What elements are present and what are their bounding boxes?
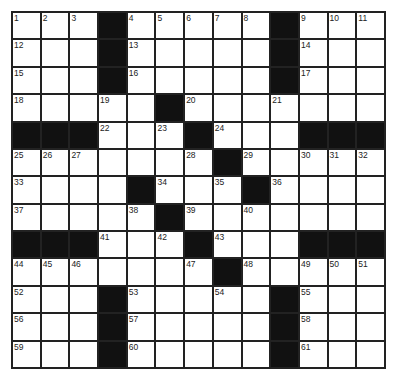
crossword-cell[interactable] bbox=[185, 287, 212, 312]
crossword-cell[interactable] bbox=[70, 314, 97, 339]
crossword-cell[interactable]: 23 bbox=[156, 123, 183, 148]
crossword-cell[interactable] bbox=[70, 95, 97, 120]
crossword-cell[interactable]: 61 bbox=[300, 342, 327, 367]
crossword-cell[interactable]: 3 bbox=[70, 13, 97, 38]
crossword-cell[interactable]: 15 bbox=[13, 68, 40, 93]
crossword-cell[interactable] bbox=[329, 314, 356, 339]
crossword-cell[interactable] bbox=[156, 259, 183, 284]
crossword-cell[interactable]: 36 bbox=[271, 177, 298, 202]
crossword-cell[interactable]: 44 bbox=[13, 259, 40, 284]
crossword-cell[interactable] bbox=[243, 95, 270, 120]
crossword-cell[interactable] bbox=[271, 150, 298, 175]
crossword-cell[interactable] bbox=[42, 314, 69, 339]
crossword-cell[interactable]: 50 bbox=[329, 259, 356, 284]
crossword-cell[interactable] bbox=[42, 342, 69, 367]
crossword-cell[interactable] bbox=[357, 342, 384, 367]
crossword-cell[interactable] bbox=[329, 40, 356, 65]
crossword-cell[interactable]: 41 bbox=[99, 232, 126, 257]
crossword-cell[interactable] bbox=[329, 95, 356, 120]
crossword-cell[interactable]: 42 bbox=[156, 232, 183, 257]
crossword-cell[interactable]: 5 bbox=[156, 13, 183, 38]
crossword-cell[interactable]: 33 bbox=[13, 177, 40, 202]
crossword-cell[interactable] bbox=[214, 205, 241, 230]
crossword-cell[interactable] bbox=[214, 40, 241, 65]
crossword-cell[interactable] bbox=[185, 40, 212, 65]
crossword-cell[interactable]: 58 bbox=[300, 314, 327, 339]
crossword-cell[interactable]: 4 bbox=[128, 13, 155, 38]
crossword-cell[interactable] bbox=[156, 150, 183, 175]
crossword-cell[interactable]: 1 bbox=[13, 13, 40, 38]
crossword-cell[interactable]: 48 bbox=[243, 259, 270, 284]
crossword-cell[interactable]: 54 bbox=[214, 287, 241, 312]
crossword-cell[interactable] bbox=[271, 123, 298, 148]
crossword-cell[interactable] bbox=[243, 232, 270, 257]
crossword-cell[interactable] bbox=[271, 205, 298, 230]
crossword-cell[interactable]: 10 bbox=[329, 13, 356, 38]
crossword-cell[interactable] bbox=[42, 68, 69, 93]
crossword-cell[interactable]: 28 bbox=[185, 150, 212, 175]
crossword-cell[interactable]: 59 bbox=[13, 342, 40, 367]
crossword-cell[interactable] bbox=[185, 68, 212, 93]
crossword-cell[interactable]: 11 bbox=[357, 13, 384, 38]
crossword-cell[interactable]: 17 bbox=[300, 68, 327, 93]
crossword-cell[interactable] bbox=[42, 40, 69, 65]
crossword-cell[interactable] bbox=[329, 177, 356, 202]
crossword-cell[interactable] bbox=[243, 342, 270, 367]
crossword-cell[interactable] bbox=[357, 287, 384, 312]
crossword-cell[interactable] bbox=[99, 177, 126, 202]
crossword-cell[interactable]: 12 bbox=[13, 40, 40, 65]
crossword-cell[interactable] bbox=[329, 287, 356, 312]
crossword-cell[interactable]: 21 bbox=[271, 95, 298, 120]
crossword-cell[interactable]: 51 bbox=[357, 259, 384, 284]
crossword-cell[interactable] bbox=[156, 314, 183, 339]
crossword-cell[interactable] bbox=[243, 68, 270, 93]
crossword-cell[interactable] bbox=[243, 40, 270, 65]
crossword-cell[interactable]: 45 bbox=[42, 259, 69, 284]
crossword-cell[interactable]: 38 bbox=[128, 205, 155, 230]
crossword-cell[interactable] bbox=[271, 259, 298, 284]
crossword-cell[interactable] bbox=[185, 177, 212, 202]
crossword-cell[interactable] bbox=[243, 287, 270, 312]
crossword-cell[interactable]: 20 bbox=[185, 95, 212, 120]
crossword-cell[interactable]: 56 bbox=[13, 314, 40, 339]
crossword-cell[interactable]: 22 bbox=[99, 123, 126, 148]
crossword-cell[interactable] bbox=[99, 259, 126, 284]
crossword-cell[interactable] bbox=[357, 314, 384, 339]
crossword-cell[interactable] bbox=[156, 68, 183, 93]
crossword-cell[interactable] bbox=[156, 40, 183, 65]
crossword-cell[interactable] bbox=[243, 314, 270, 339]
crossword-cell[interactable]: 37 bbox=[13, 205, 40, 230]
crossword-cell[interactable] bbox=[300, 177, 327, 202]
crossword-cell[interactable]: 8 bbox=[243, 13, 270, 38]
crossword-cell[interactable] bbox=[329, 342, 356, 367]
crossword-cell[interactable]: 39 bbox=[185, 205, 212, 230]
crossword-cell[interactable]: 14 bbox=[300, 40, 327, 65]
crossword-cell[interactable]: 34 bbox=[156, 177, 183, 202]
crossword-cell[interactable] bbox=[70, 177, 97, 202]
crossword-cell[interactable]: 13 bbox=[128, 40, 155, 65]
crossword-cell[interactable] bbox=[70, 287, 97, 312]
crossword-cell[interactable]: 32 bbox=[357, 150, 384, 175]
crossword-cell[interactable]: 47 bbox=[185, 259, 212, 284]
crossword-cell[interactable]: 57 bbox=[128, 314, 155, 339]
crossword-cell[interactable]: 2 bbox=[42, 13, 69, 38]
crossword-cell[interactable] bbox=[70, 342, 97, 367]
crossword-cell[interactable] bbox=[42, 205, 69, 230]
crossword-cell[interactable] bbox=[70, 205, 97, 230]
crossword-cell[interactable] bbox=[214, 314, 241, 339]
crossword-cell[interactable] bbox=[357, 95, 384, 120]
crossword-cell[interactable] bbox=[42, 287, 69, 312]
crossword-cell[interactable]: 40 bbox=[243, 205, 270, 230]
crossword-cell[interactable] bbox=[128, 232, 155, 257]
crossword-cell[interactable]: 19 bbox=[99, 95, 126, 120]
crossword-cell[interactable] bbox=[156, 287, 183, 312]
crossword-cell[interactable]: 29 bbox=[243, 150, 270, 175]
crossword-cell[interactable]: 60 bbox=[128, 342, 155, 367]
crossword-cell[interactable] bbox=[70, 40, 97, 65]
crossword-cell[interactable]: 18 bbox=[13, 95, 40, 120]
crossword-cell[interactable] bbox=[357, 205, 384, 230]
crossword-cell[interactable]: 6 bbox=[185, 13, 212, 38]
crossword-cell[interactable]: 30 bbox=[300, 150, 327, 175]
crossword-cell[interactable] bbox=[128, 123, 155, 148]
crossword-cell[interactable] bbox=[329, 68, 356, 93]
